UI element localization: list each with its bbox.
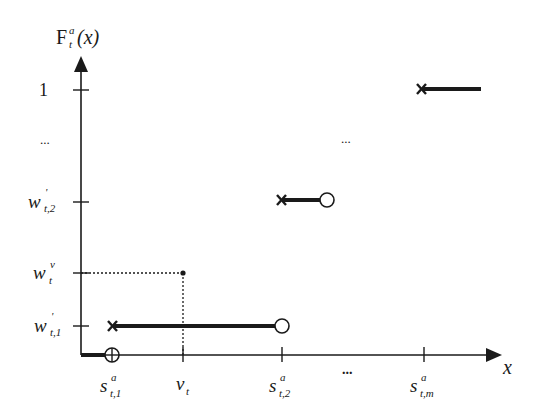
- open-circle-icon: [320, 193, 334, 207]
- y-axis-arrow-icon: [74, 56, 88, 72]
- y-tick-label-ellipsis: ...: [40, 132, 50, 147]
- x-tick-label-s-tm: s: [410, 375, 417, 396]
- y-axis-label-arg: (x): [77, 26, 100, 49]
- x-tick-label-s-t2: s: [269, 375, 276, 396]
- x-tick-label-s-t1: s: [100, 375, 107, 396]
- middle-ellipsis: ...: [341, 131, 351, 146]
- y-tick-label-w-t2-sup: ': [45, 186, 48, 198]
- x-tick-label-v-t: v: [176, 373, 185, 394]
- y-tick-label-w-tv: w: [33, 262, 46, 283]
- y-tick-label-w-t1: w: [34, 315, 47, 336]
- x-tick-label-ellipsis: ...: [342, 362, 353, 377]
- dot-point-icon: [180, 270, 185, 275]
- x-tick-label-s-tm-sub: t,m: [420, 387, 434, 399]
- y-tick-label-w-tv-sub: t: [49, 274, 53, 286]
- x-tick-label-s-t1-sup: a: [111, 371, 117, 383]
- y-axis-label-sub: t: [69, 38, 73, 50]
- open-circle-icon: [275, 319, 289, 333]
- y-tick-label-w-t1-sub: t,1: [50, 326, 61, 338]
- cdf-step-diagram: ... F a t (x) 1 ... w ' t,2 w v t w ' t,…: [0, 0, 539, 417]
- y-axis-label: F: [56, 26, 67, 48]
- y-tick-label-w-t2-sub: t,2: [44, 202, 56, 214]
- x-tick-label-s-t2-sup: a: [280, 371, 286, 383]
- x-axis-label: x: [502, 356, 512, 378]
- y-tick-label-1: 1: [39, 80, 48, 100]
- y-tick-label-w-t1-sup: ': [51, 310, 54, 322]
- x-tick-label-v-t-sub: t: [186, 385, 190, 397]
- y-axis-label-sup: a: [69, 24, 75, 36]
- y-tick-label-w-tv-sup: v: [50, 258, 55, 270]
- x-tick-label-s-t1-sub: t,1: [110, 387, 121, 399]
- x-tick-label-s-t2-sub: t,2: [279, 387, 291, 399]
- x-axis-arrow-icon: [486, 348, 502, 362]
- x-tick-label-s-tm-sup: a: [421, 371, 427, 383]
- y-tick-label-w-t2: w: [28, 191, 41, 212]
